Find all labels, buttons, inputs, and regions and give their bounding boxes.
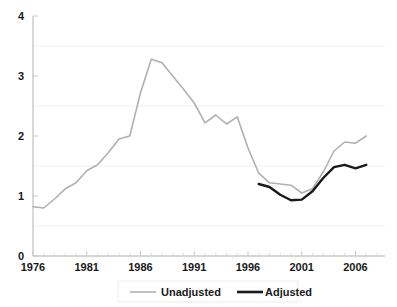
x-tick-label: 2001 (290, 261, 314, 273)
x-tick-label: 1996 (236, 261, 260, 273)
gridlines (33, 46, 385, 226)
series-line-adjusted (259, 165, 367, 200)
legend-label-adjusted: Adjusted (265, 286, 312, 298)
x-tick-label: 1981 (75, 261, 99, 273)
y-tick-label: 1 (18, 190, 24, 202)
y-tick-label: 4 (18, 10, 25, 22)
legend: UnadjustedAdjusted (118, 281, 312, 302)
legend-label-unadjusted: Unadjusted (161, 286, 221, 298)
y-tick-labels: 01234 (18, 10, 25, 262)
line-chart: 01234 1976198119861991199620012006 Unadj… (0, 0, 397, 307)
y-tick-label: 3 (18, 70, 24, 82)
x-tick-labels: 1976198119861991199620012006 (21, 261, 368, 273)
x-tick-label: 1991 (182, 261, 206, 273)
y-tick-label: 2 (18, 130, 24, 142)
x-tick-label: 1986 (128, 261, 152, 273)
y-axis (33, 16, 38, 256)
x-tick-label: 1976 (21, 261, 45, 273)
x-axis (33, 251, 385, 256)
data-series (33, 59, 366, 208)
x-tick-label: 2006 (343, 261, 367, 273)
chart-canvas: 01234 1976198119861991199620012006 Unadj… (0, 0, 397, 307)
